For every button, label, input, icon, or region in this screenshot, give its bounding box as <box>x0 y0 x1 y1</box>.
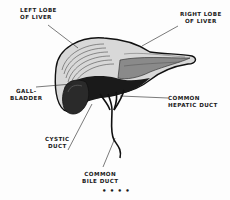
label-common-bile-duct: Common bile duct <box>82 171 118 185</box>
label-gallbladder-line2: bladder <box>10 95 42 102</box>
label-cystic-duct-line1: Cystic <box>45 136 70 143</box>
label-gallbladder: Gall- bladder <box>10 88 42 102</box>
label-common-hepatic-duct: Common hepatic duct <box>168 95 218 109</box>
label-left-lobe: Left lobe of liver <box>20 7 57 21</box>
label-gallbladder-line1: Gall- <box>10 88 42 95</box>
label-cystic-duct-line2: duct <box>45 143 70 150</box>
label-cystic-duct: Cystic duct <box>45 136 70 150</box>
liver-diagram: Left lobe of liver Right lobe of liver G… <box>0 0 230 200</box>
label-right-lobe-line1: Right lobe <box>180 11 222 18</box>
label-common-bile-duct-line1: Common <box>82 171 118 178</box>
label-common-hepatic-duct-line2: hepatic duct <box>168 102 218 109</box>
bile-ducts <box>100 90 124 158</box>
label-right-lobe-line2: of liver <box>180 18 222 25</box>
label-right-lobe: Right lobe of liver <box>180 11 222 25</box>
footer-dots: • • • • <box>102 188 130 195</box>
label-left-lobe-line1: Left lobe <box>20 7 57 14</box>
label-common-hepatic-duct-line1: Common <box>168 95 218 102</box>
label-left-lobe-line2: of liver <box>20 14 57 21</box>
label-common-bile-duct-line2: bile duct <box>82 178 118 185</box>
